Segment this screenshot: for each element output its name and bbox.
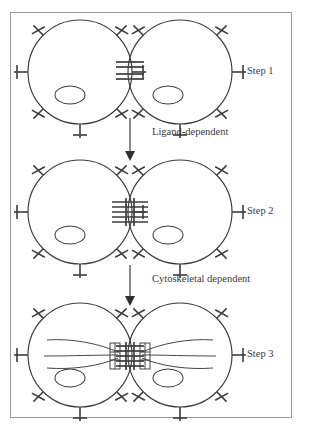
receptor-spike-icon [132,308,145,318]
nucleus [55,86,85,104]
nucleus [55,369,85,387]
cell-membrane [28,20,132,124]
receptor-spike-icon [215,25,228,35]
cell-left-step3 [14,303,132,421]
receptor-spike-icon [215,249,228,259]
receptor-spike-icon [32,165,45,175]
receptor-spike-icon [132,109,145,119]
panel-step-3 [14,303,246,421]
arrow-cytoskeletal-dependent [125,265,135,306]
receptor-spike-icon [115,308,128,318]
receptor-spike-icon [132,25,145,35]
cell-right-step2 [128,160,246,278]
receptor-spike-icon [73,124,87,138]
receptor-spike-icon [232,65,246,79]
receptor-spike-icon [32,25,45,35]
cytoskeletal-filaments-left [44,340,118,369]
nucleus [153,226,183,244]
receptor-spike-icon [115,25,128,35]
receptor-spike-icon [132,249,145,259]
step-3-label: Step 3 [247,348,274,359]
nucleus [153,369,183,387]
receptor-spike-icon [115,249,128,259]
receptor-spike-icon [132,165,145,175]
receptor-spike-icon [32,308,45,318]
receptor-spike-icon [132,392,145,402]
receptor-spike-icon [32,109,45,119]
receptor-spike-icon [14,205,28,219]
receptor-spike-icon [232,348,246,362]
junction-complex-step3 [110,342,150,370]
receptor-spikes [14,308,128,421]
receptor-spike-icon [14,348,28,362]
receptor-spike-icon [115,165,128,175]
cell-right-step3 [128,303,246,421]
arrow-ligand-dependent [125,118,135,161]
receptor-spike-icon [215,165,228,175]
cell-right-step1 [128,20,246,138]
junction-bars-step2 [112,198,148,226]
step-1-label: Step 1 [247,65,274,76]
receptor-spike-icon [173,407,187,421]
receptor-spike-icon [215,308,228,318]
receptor-spikes [132,308,246,421]
junction-bars-step1 [116,62,144,79]
receptor-spike-icon [32,249,45,259]
nucleus [55,226,85,244]
panel-step-2 [14,160,246,278]
receptor-spike-icon [73,407,87,421]
receptor-spike-icon [73,264,87,278]
receptor-spike-icon [232,205,246,219]
receptor-spikes [14,25,146,138]
step-2-label: Step 2 [247,205,274,216]
nucleus [153,86,183,104]
receptor-spikes [132,165,246,278]
receptor-spike-icon [215,109,228,119]
cytoskeletal-dependent-label: Cytoskeletal dependent [152,273,250,284]
receptor-spike-icon [115,109,128,119]
cytoskeletal-filaments-right [142,340,216,369]
receptor-spike-icon [115,392,128,402]
receptor-spike-icon [215,392,228,402]
receptor-spikes [132,25,246,138]
receptor-spike-icon [14,65,28,79]
ligand-dependent-label: Ligand-dependent [152,126,228,137]
receptor-spike-icon [32,392,45,402]
